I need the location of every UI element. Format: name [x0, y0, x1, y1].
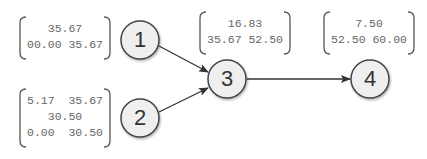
- matrix-row: 35.67: [22, 21, 108, 37]
- matrix-node-2: 5.17 35.67 30.50 0.00 30.50: [22, 93, 108, 141]
- node-1-label: 1: [120, 20, 160, 60]
- matrix-row: 5.17 35.67: [22, 93, 108, 109]
- matrix-row: 30.50: [22, 109, 108, 125]
- matrix-node-3: 16.83 35.67 52.50: [202, 16, 288, 48]
- matrix-row: 00.00 35.67: [22, 37, 108, 53]
- node-3-label: 3: [207, 59, 247, 99]
- node-2-label: 2: [120, 98, 160, 138]
- node-4-label: 4: [350, 59, 390, 99]
- matrix-row: 35.67 52.50: [202, 32, 288, 48]
- edge-2-3: [159, 88, 208, 112]
- matrix-row: 52.50 60.00: [326, 32, 412, 48]
- matrix-node-1: 35.67 00.00 35.67: [22, 21, 108, 53]
- matrix-row: 16.83: [202, 16, 288, 32]
- matrix-node-4: 7.50 52.50 60.00: [326, 16, 412, 48]
- matrix-row: 0.00 30.50: [22, 125, 108, 141]
- matrix-row: 7.50: [326, 16, 412, 32]
